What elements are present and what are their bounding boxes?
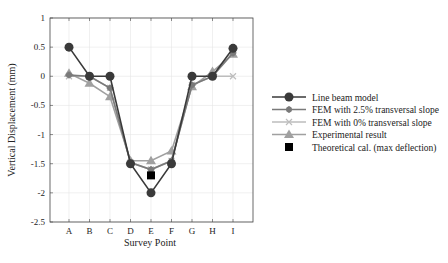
x-tick-label: B — [86, 226, 92, 236]
x-tick-label: C — [107, 226, 113, 236]
y-tick-label: 0.5 — [34, 42, 46, 52]
x-tick-label: A — [66, 226, 73, 236]
legend-item: FEM with 0% transversal slope — [272, 118, 432, 128]
y-axis-label: Vertical Displacement (mm) — [6, 63, 18, 176]
legend: Line beam modelFEM with 2.5% transversal… — [272, 93, 439, 154]
x-tick-label: F — [169, 226, 174, 236]
legend-item: Line beam model — [272, 93, 379, 103]
line-chart: 10.50-0.5-1-1.5-2-2.5 ABCDEFGHI Survey P… — [0, 0, 448, 263]
x-axis-label: Survey Point — [124, 237, 176, 248]
x-tick-label: I — [232, 226, 235, 236]
x-tick-label: H — [209, 226, 216, 236]
x-axis-ticks: ABCDEFGHI — [66, 18, 235, 236]
series-square — [147, 171, 155, 179]
y-tick-label: -2 — [38, 188, 46, 198]
legend-item: Theoretical cal. (max deflection) — [285, 143, 437, 154]
x-tick-label: E — [148, 226, 154, 236]
legend-label: FEM with 2.5% transversal slope — [312, 105, 439, 115]
x-tick-label: G — [189, 226, 196, 236]
y-tick-label: -1.5 — [31, 159, 46, 169]
x-tick-label: D — [127, 226, 134, 236]
y-tick-label: -1 — [38, 130, 46, 140]
legend-item: FEM with 2.5% transversal slope — [272, 105, 439, 115]
legend-item: Experimental result — [272, 130, 387, 141]
legend-label: Experimental result — [312, 130, 387, 140]
legend-label: FEM with 0% transversal slope — [312, 118, 432, 128]
y-tick-label: 1 — [41, 13, 46, 23]
legend-label: Line beam model — [312, 93, 379, 103]
legend-label: Theoretical cal. (max deflection) — [312, 143, 437, 154]
y-tick-label: 0 — [41, 71, 46, 81]
y-tick-label: -2.5 — [31, 217, 46, 227]
y-tick-label: -0.5 — [31, 100, 46, 110]
